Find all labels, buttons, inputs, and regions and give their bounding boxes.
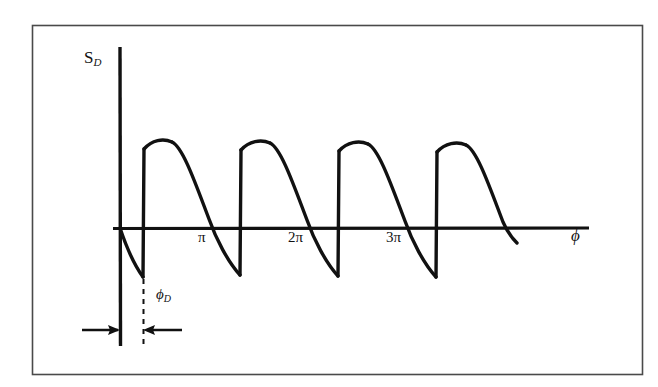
- y-axis-line: [120, 47, 121, 346]
- curve-segment-jump-3: [436, 152, 437, 277]
- x-axis-line: [113, 228, 589, 229]
- phi-d-annotation-label: ϕD: [156, 286, 171, 304]
- x-tick-label-3pi: 3π: [386, 229, 401, 246]
- curve-segment-rise-0: [144, 140, 172, 149]
- y-axis-label: SD: [84, 48, 101, 68]
- curve-segment-fall-2: [270, 143, 338, 276]
- phi-d-label-subscript: D: [164, 293, 171, 304]
- figure-container: SD π 2π 3π ϕ ϕD: [0, 0, 658, 387]
- curve-segment-rise-2: [339, 142, 368, 151]
- curve-segment-fall-1: [172, 142, 240, 275]
- curve-segment-jump-2: [338, 151, 339, 276]
- phi-d-label-base: ϕ: [156, 286, 164, 302]
- y-axis-label-subscript: D: [93, 56, 101, 68]
- curve-segment-rise-3: [437, 143, 466, 152]
- x-tick-label-2pi: 2π: [288, 229, 303, 246]
- curve-segment-fall-0: [120, 228, 143, 277]
- curve-segment-jump-1: [240, 150, 241, 275]
- x-axis-label: ϕ: [571, 226, 580, 246]
- curve-segment-fall-3: [368, 144, 436, 277]
- curve-segment-rise-1: [241, 141, 270, 150]
- phi-d-dimension-arrows: [82, 325, 182, 335]
- discriminator-curve: [120, 140, 517, 277]
- x-tick-label-pi: π: [198, 229, 206, 246]
- curve-segment-jump-0: [143, 149, 144, 277]
